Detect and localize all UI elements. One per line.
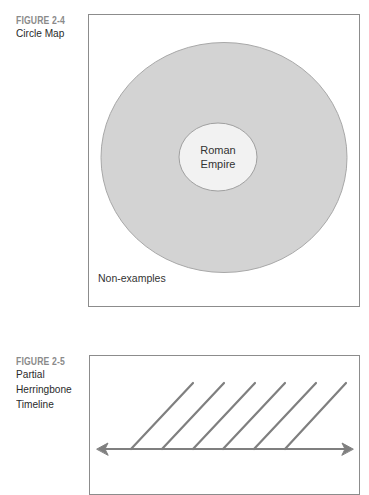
circle-map: Roman Empire Non-examples — [98, 43, 347, 285]
figure-2-5-label: FIGURE 2-5 Partial Herringbone Timeline — [16, 355, 79, 412]
figure-number: FIGURE 2-5 — [16, 355, 68, 367]
herringbone-frame — [89, 355, 360, 495]
inner-circle — [179, 123, 257, 191]
figure-caption-line: Partial — [16, 367, 72, 382]
figure-caption-line: Herringbone — [16, 382, 72, 397]
figure-caption-line: Timeline — [16, 397, 72, 412]
outer-region-label: Non-examples — [98, 272, 166, 284]
inner-circle-label-line-2: Empire — [201, 158, 236, 170]
inner-circle-label-line-1: Roman — [200, 144, 235, 156]
